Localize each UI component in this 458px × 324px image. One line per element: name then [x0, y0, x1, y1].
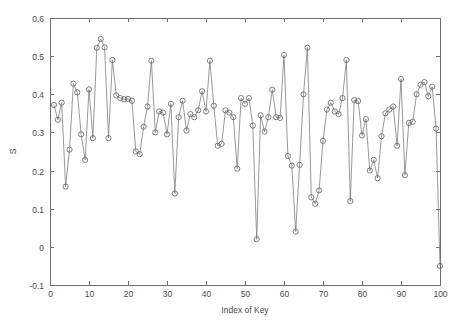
x-tick-label: 10	[85, 289, 95, 299]
x-tick-label: 60	[280, 289, 290, 299]
x-tick-label: 90	[397, 289, 407, 299]
y-axis-tick-labels: -0.100.10.20.30.40.50.6	[29, 14, 44, 291]
x-tick-label: 40	[202, 289, 212, 299]
x-axis-label: Index of Key	[221, 305, 269, 315]
x-tick-label: 0	[48, 289, 53, 299]
y-tick-label: 0.4	[32, 90, 44, 100]
y-tick-label: 0	[39, 243, 44, 253]
data-series-line	[54, 39, 440, 266]
chart-figure: 0102030405060708090100 -0.100.10.20.30.4…	[0, 0, 458, 324]
data-point-markers	[51, 36, 442, 268]
chart-canvas: 0102030405060708090100 -0.100.10.20.30.4…	[0, 0, 458, 324]
y-tick-label: 0.2	[32, 167, 44, 177]
y-tick-label: 0.6	[32, 14, 44, 24]
axes-frame	[51, 19, 441, 286]
y-tick-label: -0.1	[29, 281, 44, 291]
x-tick-label: 30	[163, 289, 173, 299]
x-tick-label: 100	[433, 289, 447, 299]
x-tick-label: 80	[358, 289, 368, 299]
y-tick-label: 0.5	[32, 52, 44, 62]
x-tick-label: 20	[124, 289, 134, 299]
x-axis-tick-labels: 0102030405060708090100	[48, 289, 448, 299]
y-axis-label: S	[8, 148, 18, 154]
x-tick-label: 50	[241, 289, 251, 299]
x-axis-ticks	[51, 18, 441, 285]
y-tick-label: 0.1	[32, 205, 44, 215]
x-tick-label: 70	[319, 289, 329, 299]
y-tick-label: 0.3	[32, 128, 44, 138]
y-axis-ticks	[50, 19, 440, 286]
